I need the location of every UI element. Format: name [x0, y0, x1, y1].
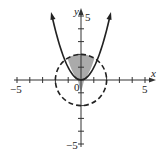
graph-canvas: y 5 x −5 5 0 −5	[0, 0, 167, 157]
parabola-arrow-left-icon	[51, 12, 56, 20]
x-max-label: 5	[142, 83, 148, 95]
parabola-arrow-right-icon	[107, 12, 112, 20]
x-axis-label: x	[150, 67, 156, 79]
x-min-label: −5	[10, 83, 22, 95]
y-axis-label: y	[73, 5, 79, 17]
y-axis-arrow-icon	[79, 8, 84, 15]
origin-label: 0	[74, 81, 80, 93]
y-min-label: −5	[66, 139, 78, 151]
y-max-label: 5	[85, 11, 91, 23]
